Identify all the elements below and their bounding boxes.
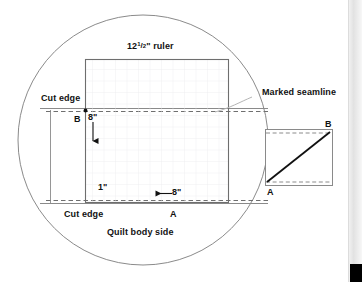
point-b-marker-dot [84, 109, 88, 113]
diagram-vector-layer [0, 0, 348, 282]
quilt-binding-diagram: 121/2" ruler Cut edge B 8" 1" 8" Cut edg… [0, 0, 348, 282]
vertical-measure-label: 8" [88, 113, 97, 122]
detail-folded-strip [266, 130, 333, 186]
ruler-label-suffix: ruler [153, 41, 174, 51]
cut-edge-bottom-label: Cut edge [64, 210, 103, 219]
detail-point-b-label: B [325, 120, 332, 129]
point-b-left-label: B [74, 115, 81, 124]
ruler-unit: " [146, 41, 150, 51]
scrollbar-thumb[interactable] [350, 264, 362, 282]
screenshot-canvas: 121/2" ruler Cut edge B 8" 1" 8" Cut edg… [0, 0, 362, 282]
ruler-fraction: 1/2 [137, 41, 146, 50]
seam-allowance-label: 1" [98, 183, 107, 192]
horizontal-measure-label: 8" [172, 188, 181, 197]
ruler-label: 121/2" ruler [127, 41, 174, 51]
detail-point-a-label: A [267, 188, 274, 197]
vertical-scrollbar[interactable] [348, 0, 362, 282]
cut-edge-top-label: Cut edge [41, 94, 80, 103]
ruler-size-value: 12 [127, 41, 137, 51]
marked-seamline-label: Marked seamline [262, 88, 336, 97]
point-a-bottom-label: A [170, 210, 177, 219]
quilt-body-side-label: Quilt body side [107, 228, 174, 237]
